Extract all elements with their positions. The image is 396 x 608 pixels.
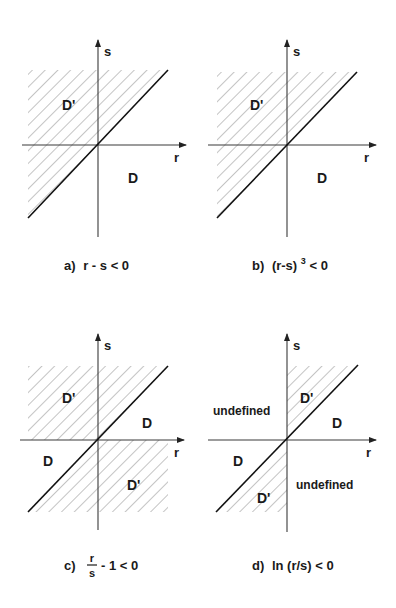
svg-text:s: s — [89, 567, 95, 579]
svg-text:c): c) — [64, 558, 76, 573]
svg-text:r: r — [90, 552, 95, 564]
region-label-undefined-lower: undefined — [296, 478, 353, 492]
panel-d: s r undefined D' D D D' undefined d) ln … — [208, 334, 376, 573]
region-label-d-left: D — [233, 453, 243, 469]
caption-d: d) ln (r/s) < 0 — [252, 558, 334, 573]
s-axis-label: s — [104, 44, 111, 59]
s-axis-label: s — [293, 44, 300, 59]
r-axis-label: r — [366, 445, 371, 460]
region-label-d-right: D — [332, 415, 342, 431]
region-label-d-lower: D — [43, 453, 53, 469]
r-axis-label: r — [364, 150, 369, 165]
region-label-d: D — [317, 170, 327, 186]
caption-a: a) r - s < 0 — [64, 258, 129, 273]
caption-b: b) (r-s) 3 < 0 — [252, 252, 328, 273]
region-label-d-prime-lower: D' — [257, 490, 270, 506]
domain-regions-figure: s r D' D a) r - s < 0 s r D' D b) (r-s) … — [0, 0, 396, 608]
region-label-d-upper: D — [142, 415, 152, 431]
caption-c: c) r s - 1 < 0 — [64, 552, 138, 579]
region-label-d-prime: D' — [62, 97, 75, 113]
s-axis-label: s — [293, 338, 300, 353]
r-axis-label: r — [174, 445, 179, 460]
region-label-d-prime-lower: D' — [127, 477, 140, 493]
panel-b: s r D' D b) (r-s) 3 < 0 — [208, 40, 376, 273]
region-label-d-prime-upper: D' — [300, 390, 313, 406]
region-label-d-prime-upper: D' — [62, 390, 75, 406]
region-label-d: D — [128, 170, 138, 186]
svg-text:- 1 < 0: - 1 < 0 — [101, 558, 138, 573]
r-axis-label: r — [174, 150, 179, 165]
panel-c: s r D' D D D' c) r s - 1 < 0 — [20, 334, 184, 579]
region-label-undefined-upper: undefined — [213, 404, 270, 418]
panel-a: s r D' D a) r - s < 0 — [22, 40, 186, 273]
s-axis-label: s — [104, 338, 111, 353]
region-label-d-prime: D' — [250, 97, 263, 113]
